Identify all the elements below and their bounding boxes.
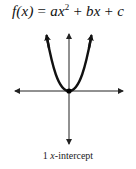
- caption: 1 x-intercept: [0, 150, 136, 161]
- curve-arrow-left-icon: [47, 35, 50, 48]
- parabola-graph: [0, 0, 136, 169]
- caption-count: 1: [43, 150, 48, 161]
- caption-rest: -intercept: [55, 150, 93, 161]
- x-intercept-point: [66, 88, 71, 93]
- curve-arrow-right-icon: [89, 35, 92, 48]
